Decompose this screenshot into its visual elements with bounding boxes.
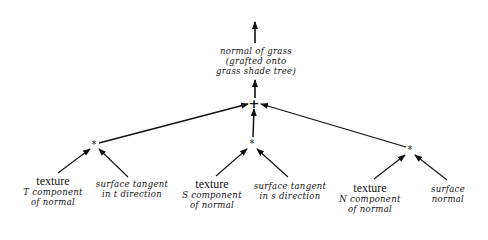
leaf-line: in s direction <box>254 191 326 201</box>
root-line-3: grass shade tree) <box>216 66 296 76</box>
leaf-line: S component <box>182 190 242 200</box>
leaf-texture-t: texture T component of normal <box>23 176 83 207</box>
root-label: normal of grass (grafted onto grass shad… <box>216 46 296 76</box>
edge-product3-to-sum <box>261 104 406 147</box>
leaf-line: of normal <box>23 197 83 207</box>
leaf-surface-normal: surface normal <box>431 184 465 204</box>
edge-p2-right <box>257 149 288 177</box>
leaf-texture-s: texture S component of normal <box>182 179 242 210</box>
leaf-title: texture <box>339 183 400 194</box>
root-line-2: (grafted onto <box>216 56 296 66</box>
leaf-line: N component <box>339 194 400 204</box>
leaf-line: in t direction <box>96 189 168 199</box>
edge-p1-right <box>99 149 128 177</box>
edge-p1-left <box>58 149 90 173</box>
root-line-1: normal of grass <box>216 46 296 56</box>
leaf-line: normal <box>431 194 465 204</box>
edge-p2-left <box>216 149 247 176</box>
edge-p3-left <box>374 155 405 179</box>
sum-node: + <box>249 97 260 110</box>
leaf-line: T component <box>23 187 83 197</box>
product-node-1: * <box>92 140 97 150</box>
leaf-line: of normal <box>339 204 400 214</box>
leaf-line: of normal <box>182 200 242 210</box>
leaf-line: surface tangent <box>96 179 168 189</box>
leaf-title: texture <box>182 179 242 190</box>
product-node-2: * <box>250 139 255 149</box>
product-node-3: * <box>408 145 413 155</box>
edge-product2-to-sum <box>253 109 254 137</box>
leaf-surface-tangent-t: surface tangent in t direction <box>96 179 168 199</box>
leaf-line: surface <box>431 184 465 194</box>
leaf-title: texture <box>23 176 83 187</box>
edge-product1-to-sum <box>99 104 248 143</box>
edge-p3-right <box>415 155 447 180</box>
leaf-surface-tangent-s: surface tangent in s direction <box>254 181 326 201</box>
leaf-line: surface tangent <box>254 181 326 191</box>
leaf-texture-n: texture N component of normal <box>339 183 400 214</box>
